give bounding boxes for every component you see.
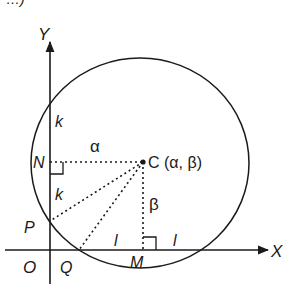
k-upper-label: k bbox=[55, 113, 64, 130]
x-axis-label: X bbox=[270, 242, 283, 261]
point-Q-label: Q bbox=[60, 259, 72, 276]
right-angle-M bbox=[143, 237, 156, 250]
point-P-label: P bbox=[24, 219, 35, 236]
k-lower-label: k bbox=[55, 186, 64, 203]
title-fragment: …) bbox=[6, 0, 25, 7]
point-M-label: M bbox=[130, 254, 144, 271]
line-C-Q bbox=[79, 162, 143, 250]
origin-label: O bbox=[23, 258, 36, 277]
alpha-label: α bbox=[90, 137, 100, 156]
point-N-label: N bbox=[33, 154, 45, 171]
circle-intercept-diagram: …) Y X O C (α, β) N P Q M α β k k l l bbox=[0, 0, 291, 289]
l-left-label: l bbox=[114, 232, 118, 249]
l-right-label: l bbox=[173, 232, 177, 249]
beta-label: β bbox=[149, 195, 159, 214]
center-point bbox=[140, 159, 145, 164]
right-angle-N bbox=[50, 162, 63, 174]
y-axis-label: Y bbox=[38, 25, 51, 44]
center-label: C (α, β) bbox=[148, 154, 202, 171]
circle bbox=[31, 58, 249, 268]
line-C-P bbox=[50, 162, 143, 221]
